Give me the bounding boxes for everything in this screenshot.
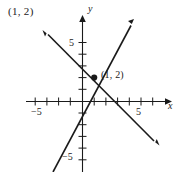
axes-group (26, 15, 172, 172)
graph-figure: (1, 2) (1, 2) y x −5 5 5 −5 (0, 0, 178, 172)
y-axis-label: y (88, 4, 92, 14)
negative-line-arrowhead-upper (43, 30, 47, 37)
negative-line-arrowhead-lower (155, 139, 159, 146)
coordinate-plane (0, 0, 178, 172)
y-tick-label-positive-5: 5 (69, 38, 74, 48)
y-tick-label-negative-5: −5 (62, 152, 73, 162)
x-tick-label-negative-5: −5 (31, 107, 42, 117)
x-tick-label-positive-5: 5 (136, 107, 141, 117)
positive-line-arrowhead-upper (128, 19, 134, 24)
series-line-negative-slope (43, 30, 160, 146)
intersection-point-marker (91, 75, 97, 81)
corner-annotation: (1, 2) (8, 6, 34, 17)
y-axis-arrowhead (79, 15, 86, 22)
intersection-point-label: (1, 2) (101, 70, 124, 80)
x-axis-label: x (168, 101, 172, 111)
series-line-positive-slope (53, 19, 134, 172)
